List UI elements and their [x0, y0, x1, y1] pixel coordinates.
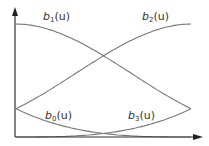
- curve-b3: [16, 109, 191, 137]
- y-axis-arrow-icon: [12, 7, 18, 16]
- curve-b2: [16, 24, 191, 109]
- curve-b0: [16, 109, 191, 137]
- label-b2: b2(u): [142, 11, 169, 24]
- x-axis-arrow-icon: [193, 134, 203, 140]
- label-b3: b3(u): [128, 110, 155, 123]
- label-b1: b1(u): [43, 11, 70, 24]
- curve-b1: [16, 24, 191, 109]
- curves: [16, 24, 191, 137]
- plot-area: [0, 0, 209, 146]
- label-b0: b0(u): [45, 110, 72, 123]
